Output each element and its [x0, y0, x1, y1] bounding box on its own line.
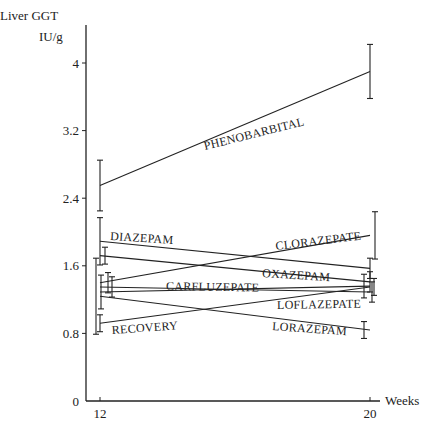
axes: 00.81.62.43.241220 — [63, 25, 380, 421]
y-tick-label: 0.8 — [63, 326, 79, 341]
series-label-recovery: RECOVERY — [111, 318, 178, 337]
y-axis-label-line1: Liver GGT — [0, 8, 58, 23]
y-tick-label: 2.4 — [63, 191, 80, 206]
y-axis-label-line2: IU/g — [39, 29, 63, 44]
series-label-lorazepam: LORAZEPAM — [272, 319, 348, 338]
series-group — [93, 44, 378, 338]
x-tick-label: 12 — [94, 406, 107, 421]
x-tick-label: 20 — [364, 406, 377, 421]
series-label-loflazepate: LOFLAZEPATE — [277, 297, 361, 312]
y-tick-label: 4 — [73, 56, 80, 71]
y-tick-label: 0 — [73, 394, 80, 409]
ggt-line-chart: 00.81.62.43.241220 PHENOBARBITALDIAZEPAM… — [0, 0, 439, 431]
y-tick-label: 1.6 — [63, 258, 80, 273]
series-label-clorazepate: CLORAZEPATE — [275, 229, 362, 253]
y-tick-label: 3.2 — [63, 123, 79, 138]
series-label-diazepam: DIAZEPAM — [110, 229, 174, 247]
series-label-oxazepam: OXAZEPAM — [262, 266, 331, 284]
series-label-carfluzepate: CARFLUZEPATE — [166, 279, 259, 295]
x-axis-label: Weeks — [385, 393, 419, 408]
series-line-phenobarbital — [100, 71, 370, 185]
